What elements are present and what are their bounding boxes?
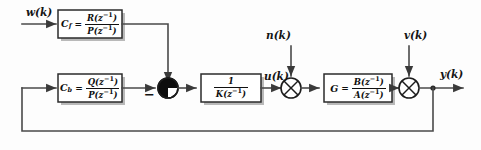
plant-denominator: A(z−1) <box>352 88 385 100</box>
plant-equals: = <box>341 83 349 93</box>
label-control-signal: u(k) <box>264 71 289 82</box>
label-input-disturbance: n(k) <box>266 30 291 41</box>
plant-name: G <box>330 83 338 94</box>
feedforward-numerator: R(z−1) <box>85 12 119 23</box>
feedback-transfer-function: Cb = Q(z−1) P(z−1) <box>58 74 122 102</box>
feedback-denominator: P(z−1) <box>86 88 119 100</box>
sum-output-disturbance-junction <box>399 78 419 98</box>
inverse-gain-numerator: 1 <box>226 77 236 86</box>
feedforward-denominator: P(z−1) <box>85 24 118 36</box>
inverse-gain-fraction: 1 K(z−1) <box>214 77 248 99</box>
feedback-fraction: Q(z−1) P(z−1) <box>86 76 120 100</box>
feedback-equals: = <box>75 83 83 93</box>
feedforward-fraction: R(z−1) P(z−1) <box>85 12 119 36</box>
sum-control-junction <box>158 78 178 98</box>
label-output-disturbance: v(k) <box>404 30 427 41</box>
block-diagram: w(k) n(k) v(k) u(k) y(k) − Cf = R(z−1) P… <box>0 0 481 150</box>
inverse-gain-denominator: K(z−1) <box>214 87 248 99</box>
inverse-gain-transfer-function: 1 K(z−1) <box>201 74 261 102</box>
feedback-name: Cb <box>60 82 72 94</box>
plant-transfer-function: G = B(z−1) A(z−1) <box>324 74 392 102</box>
plant-fraction: B(z−1) A(z−1) <box>352 76 386 100</box>
feedforward-name: Cf <box>61 18 71 30</box>
label-output-signal: y(k) <box>440 69 463 80</box>
label-negative-sign: − <box>144 88 155 101</box>
feedforward-equals: = <box>74 19 82 29</box>
plant-numerator: B(z−1) <box>352 76 386 87</box>
feedback-numerator: Q(z−1) <box>86 76 120 87</box>
feedforward-transfer-function: Cf = R(z−1) P(z−1) <box>58 10 122 38</box>
wire-feedforward-to-sum <box>122 24 168 82</box>
label-reference-signal: w(k) <box>26 7 52 18</box>
